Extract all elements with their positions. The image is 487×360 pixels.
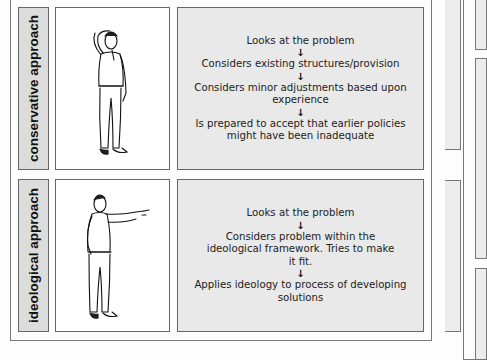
adjacent-panel-box [475,0,487,50]
row-label-ideological: ideological approach [18,179,49,332]
adjacent-panel-box [445,0,461,150]
row-label-conservative: conservative approach [18,7,49,170]
down-arrow-icon: ↓ [296,268,304,279]
man-hand-on-head-icon [55,7,170,170]
step-text: Considers minor adjustments based upon e… [178,82,423,107]
step-text: Considers existing structures/provision [196,58,406,71]
step-text: Is prepared to accept that earlier polic… [178,118,423,143]
down-arrow-icon: ↓ [296,71,304,82]
row-label-text: conservative approach [26,15,41,162]
step-text: Looks at the problem [241,207,361,220]
step-text: Applies ideology to process of developin… [178,279,423,304]
down-arrow-icon: ↓ [296,47,304,58]
step-text: Looks at the problem [241,35,361,48]
down-arrow-icon: ↓ [296,220,304,231]
adjacent-panel-box [475,58,487,259]
man-pointing-icon [55,179,170,332]
conservative-steps-box: Looks at the problem ↓ Considers existin… [177,7,424,170]
row-label-text: ideological approach [26,188,41,323]
adjacent-panel-box [445,180,461,332]
ideological-steps-box: Looks at the problem ↓ Considers problem… [177,179,424,332]
adjacent-panel-box [475,268,487,360]
down-arrow-icon: ↓ [296,107,304,118]
step-text: Considers problem within the ideological… [178,231,423,269]
